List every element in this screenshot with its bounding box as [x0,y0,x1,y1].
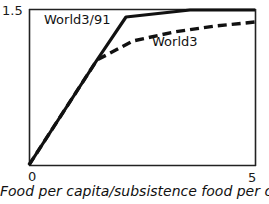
series-label-world3: World3 [152,35,198,48]
series-line-world391 [29,10,255,165]
chart-figure: 1.5 0 5 World3/91 World3 Food per capita… [0,0,269,204]
series-line-world3 [29,22,255,165]
plot-area [0,0,269,204]
plot-frame [29,9,256,166]
y-axis-max-tick-label: 1.5 [2,4,23,17]
series-label-world391: World3/91 [44,13,110,26]
x-axis-caption: Food per capita/subsistence food per cap… [0,184,269,198]
x-axis-min-tick-label: 0 [28,170,36,183]
